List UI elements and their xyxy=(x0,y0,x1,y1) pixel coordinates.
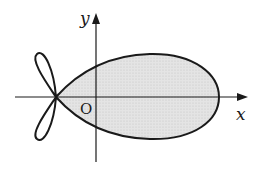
y-axis-label: y xyxy=(79,8,90,28)
diagram-canvas: y x O xyxy=(0,0,265,176)
x-axis-label: x xyxy=(236,104,246,124)
origin-label: O xyxy=(80,100,92,118)
y-axis-arrow-icon xyxy=(92,13,100,24)
x-axis-arrow-icon xyxy=(237,93,248,101)
upper-petal xyxy=(35,53,56,97)
lower-petal xyxy=(35,97,56,140)
